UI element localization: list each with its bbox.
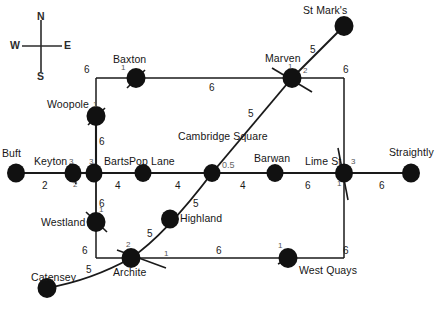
- station-label-keyton[interactable]: Keyton: [34, 155, 67, 167]
- edge-weight-catensey-archite: 5: [86, 264, 92, 275]
- edge-weight-baxton-marven: 6: [209, 82, 215, 93]
- node-number-limest-top: 3: [351, 157, 355, 166]
- node-number-limest-bottom: 1: [337, 179, 341, 188]
- edge-weight-westland-archite: 6: [82, 245, 88, 256]
- station-label-archite[interactable]: Archite: [113, 266, 146, 278]
- station-label-barts[interactable]: Barts: [104, 155, 129, 167]
- edge-weight-woopole-baxton: 6: [84, 64, 90, 75]
- edge-weight-cambridge-junction: 0.5: [222, 160, 235, 170]
- node-number-marven-left: 1: [288, 62, 292, 71]
- edge-weight-limest-straightly: 6: [379, 180, 385, 191]
- compass-south-label: S: [37, 70, 44, 82]
- node-number-keyton-top: 3: [69, 157, 73, 166]
- dot-baxton: [127, 68, 146, 88]
- edge-weight-highland-cambridge: 5: [193, 198, 199, 209]
- node-number-baxton: 1: [121, 63, 125, 72]
- station-label-lime-st[interactable]: Lime St: [305, 155, 341, 167]
- station-label-straightly[interactable]: Straightly: [389, 146, 434, 158]
- dot-buft: [7, 164, 25, 183]
- edge-weight-barwan-limest: 6: [305, 180, 311, 191]
- dot-highland: [161, 210, 179, 229]
- dot-cambridge: [204, 164, 221, 182]
- station-label-poplane[interactable]: Pop Lane: [129, 155, 175, 167]
- edge-weight-cambridge-marven: 5: [248, 108, 254, 119]
- station-label-barwan[interactable]: Barwan: [254, 152, 290, 164]
- compass-west-label: W: [10, 39, 20, 51]
- station-label-highland[interactable]: Highland: [180, 212, 222, 224]
- edge-weight-buft-keyton: 2: [42, 180, 48, 191]
- node-number-barts: 3: [89, 157, 93, 166]
- edge-weight-westquays-limest: 6: [343, 245, 349, 256]
- dot-archite: [122, 248, 141, 268]
- station-label-marven[interactable]: Marven: [265, 52, 301, 64]
- edge-weight-poplane-cambridge: 4: [175, 180, 181, 191]
- network-map: N S E W Buft Keyton Barts Pop Lane Cambr…: [0, 0, 438, 321]
- edge-weight-barts-woopole: 6: [99, 136, 105, 147]
- edge-weight-archite-highland: 5: [147, 228, 153, 239]
- edge-weight-archite-westquays: 6: [216, 245, 222, 256]
- edge-weight-barts-poplane: 4: [115, 180, 121, 191]
- compass-north-label: N: [37, 10, 45, 22]
- dot-barts: [86, 164, 103, 183]
- station-label-woopole[interactable]: Woopole: [47, 98, 89, 110]
- edge-weight-marven-limest: 6: [343, 64, 349, 75]
- dot-straightly: [402, 164, 420, 183]
- compass-east-label: E: [64, 39, 71, 51]
- edge-weight-barts-westland: 6: [99, 198, 105, 209]
- station-label-baxton[interactable]: Baxton: [113, 53, 146, 65]
- station-label-west-quays[interactable]: West Quays: [299, 264, 357, 276]
- station-label-cambridge-square[interactable]: Cambridge Square: [178, 131, 242, 143]
- node-number-west-quays: 1: [278, 241, 282, 250]
- edge-weight-marven-stmarks: 5: [310, 44, 316, 55]
- dot-westquays: [279, 248, 298, 268]
- dot-marven: [283, 68, 302, 88]
- station-label-westland[interactable]: Westland: [41, 216, 85, 228]
- node-number-archite-top: 2: [126, 240, 130, 249]
- station-label-buft[interactable]: Buft: [2, 147, 21, 159]
- station-label-st-marks[interactable]: St Mark's: [303, 4, 347, 16]
- dot-stmarks: [335, 16, 354, 36]
- node-number-keyton-bottom: 2: [73, 180, 77, 189]
- node-number-marven-right: 2: [303, 66, 307, 75]
- dot-westland: [87, 212, 106, 232]
- node-number-woopole: 1: [93, 100, 97, 109]
- dot-woopole: [87, 106, 106, 126]
- compass-rose: [22, 20, 62, 72]
- edge-weight-cambridge-barwan: 4: [240, 180, 246, 191]
- node-number-archite-right: 1: [164, 249, 168, 258]
- dot-barwan: [267, 164, 284, 182]
- station-label-catensey[interactable]: Catensey: [31, 271, 76, 283]
